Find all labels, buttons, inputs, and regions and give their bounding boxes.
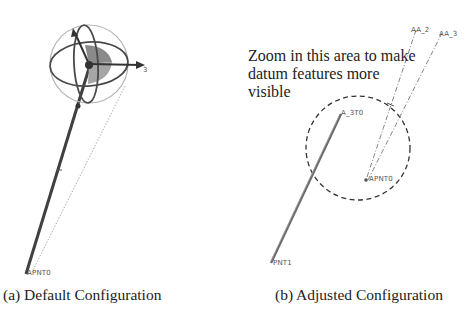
zoom-annotation-text: Zoom in this area to make datum features… <box>248 47 418 101</box>
axis-tip-label: 3 <box>143 66 148 74</box>
top-point-label: A_3T0 <box>341 109 363 117</box>
panel-adjusted-configuration: Zoom in this area to make datum features… <box>235 0 474 317</box>
x-axis-arrow[interactable] <box>89 64 141 65</box>
axis-aa3-label: AA_3 <box>439 30 458 38</box>
apnt-point[interactable] <box>364 178 368 182</box>
caption-adjusted-configuration: (b) Adjusted Configuration <box>275 286 443 304</box>
link-highlight-line <box>270 116 339 263</box>
base-point-label: APNT0 <box>27 269 51 277</box>
dotted-guide-line <box>32 86 125 272</box>
default-configuration-drawing <box>0 0 235 290</box>
main-link-line[interactable] <box>271 114 341 263</box>
adjusted-configuration-drawing <box>235 0 474 290</box>
pnt1-label: PNT1 <box>273 259 292 267</box>
gizmo-center-point[interactable] <box>85 61 93 69</box>
apnt-label: APNT0 <box>369 175 393 183</box>
axis-aa2-label: AA_2 <box>411 26 430 34</box>
panel-default-configuration: 3 APNT0 (a) Default Configuration <box>0 0 235 317</box>
caption-default-configuration: (a) Default Configuration <box>3 286 161 304</box>
link-joint-point <box>76 104 81 109</box>
